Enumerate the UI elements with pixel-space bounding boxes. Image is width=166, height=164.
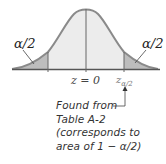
center-z-label: z = 0: [71, 74, 100, 87]
left-pointer-line: [23, 50, 34, 64]
left-tail-label: α/2: [14, 36, 35, 51]
annotation-line: Table A-2: [56, 113, 141, 127]
annotation-line: area of 1 − α/2): [56, 140, 141, 154]
annotation-text: Found from Table A-2 (corresponds to are…: [56, 99, 141, 153]
right-pointer-line: [135, 50, 146, 63]
critical-z-subscript: α/2: [121, 80, 133, 88]
critical-z-label: zα/2: [116, 74, 133, 88]
annotation-line: Found from: [56, 99, 141, 113]
right-tail-area: [124, 52, 158, 69]
right-tail-label: α/2: [142, 36, 163, 51]
annotation-line: (corresponds to: [56, 126, 141, 140]
left-tail-area: [12, 52, 48, 69]
